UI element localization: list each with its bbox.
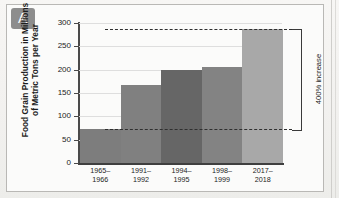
annotation-dashed-line-upper xyxy=(105,29,292,30)
figure-panel: A Food Grain Production in Millions of M… xyxy=(0,0,339,198)
annotation-dashed-line-lower xyxy=(105,129,292,130)
page-edge-rule-secondary xyxy=(335,0,336,198)
increase-bracket xyxy=(292,29,302,131)
y-axis-title-line-1: Food Grain Production in Millions xyxy=(20,0,30,155)
bar xyxy=(242,29,283,163)
y-tick-label: 200 xyxy=(45,65,71,74)
bar xyxy=(161,70,202,163)
plot-area xyxy=(79,23,282,163)
bar xyxy=(121,85,162,163)
bar xyxy=(202,67,243,163)
y-tick-label: 150 xyxy=(45,88,71,97)
y-tick-label: 300 xyxy=(45,18,71,27)
y-tick-label: 100 xyxy=(45,111,71,120)
x-tick-label-line: 2018 xyxy=(237,176,289,185)
y-tick-label: 0 xyxy=(45,158,71,167)
y-tick xyxy=(74,163,79,164)
y-axis-title-line-2: of Metric Tons per Year xyxy=(30,0,40,155)
x-tick-label: 2017–2018 xyxy=(237,167,289,184)
bar xyxy=(80,129,121,163)
page-edge-rule xyxy=(331,0,332,198)
y-tick-label: 50 xyxy=(45,135,71,144)
y-tick-label: 250 xyxy=(45,41,71,50)
bars-group xyxy=(79,23,282,163)
increase-annotation-label: 400% increase xyxy=(314,44,324,114)
x-axis-line xyxy=(78,163,284,165)
